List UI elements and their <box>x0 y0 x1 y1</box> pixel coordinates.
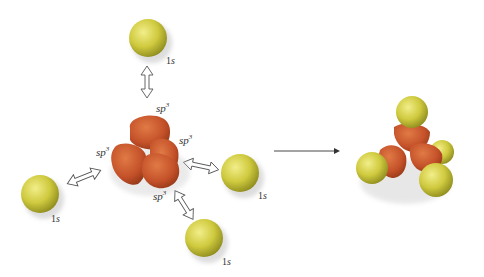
reaction-arrow <box>274 148 340 154</box>
double-arrow-left <box>65 165 103 190</box>
label-1s-top: 1s <box>166 55 175 66</box>
label-1s-right: 1s <box>258 190 267 201</box>
diagram-svg <box>0 0 484 277</box>
sp3-hybrid-orbitals <box>110 116 190 196</box>
label-sp3-left: sp3 <box>96 145 109 158</box>
double-arrow-top <box>141 66 153 98</box>
methane-product <box>356 96 454 204</box>
label-sp3-bottom: sp3 <box>153 189 166 202</box>
label-sp3-top: sp3 <box>156 101 169 114</box>
label-1s-left: 1s <box>51 213 60 224</box>
label-sp3-right: sp3 <box>179 133 192 146</box>
label-1s-bottom: 1s <box>222 256 231 267</box>
double-arrow-bottom <box>170 187 198 222</box>
diagram-canvas: 1s 1s 1s 1s sp3 sp3 sp3 sp3 <box>0 0 484 277</box>
